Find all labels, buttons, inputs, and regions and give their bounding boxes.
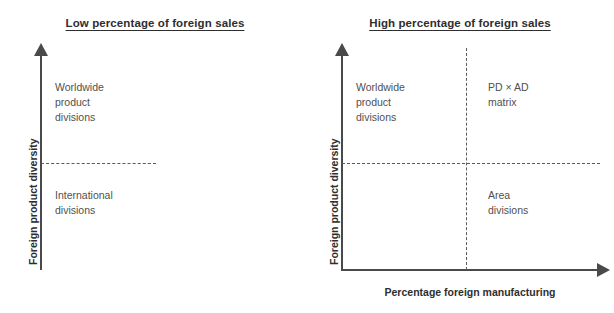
diagram-canvas: Low percentage of foreign sales Foreign … — [0, 0, 614, 313]
cell-worldwide-product-divisions-right: Worldwide product divisions — [356, 80, 405, 125]
panel-low-foreign-sales: Low percentage of foreign sales Foreign … — [0, 0, 307, 313]
y-axis-title-right: Foreign product diversity — [328, 138, 340, 265]
panel-title-high: High percentage of foreign sales — [369, 17, 551, 29]
panel-title-low: Low percentage of foreign sales — [66, 17, 245, 29]
cell-pd-ad-matrix: PD × AD matrix — [488, 80, 529, 110]
y-axis-arrow-icon-left — [34, 43, 48, 56]
x-axis-title-right: Percentage foreign manufacturing — [385, 286, 556, 298]
cell-international-divisions: International divisions — [55, 188, 113, 218]
y-axis-line-left — [40, 54, 42, 270]
y-axis-title-left: Foreign product diversity — [27, 138, 39, 265]
divider-dashed-horizontal-left — [41, 163, 156, 164]
cell-area-divisions: Area divisions — [488, 188, 528, 218]
panel-high-foreign-sales: High percentage of foreign sales Foreign… — [307, 0, 614, 313]
x-axis-line-right — [341, 269, 599, 271]
x-axis-arrow-icon-right — [597, 263, 610, 277]
y-axis-arrow-icon-right — [335, 43, 349, 56]
cell-worldwide-product-divisions-left: Worldwide product divisions — [55, 80, 104, 125]
divider-dashed-horizontal-right — [342, 163, 600, 164]
divider-dashed-vertical-right — [466, 48, 467, 270]
